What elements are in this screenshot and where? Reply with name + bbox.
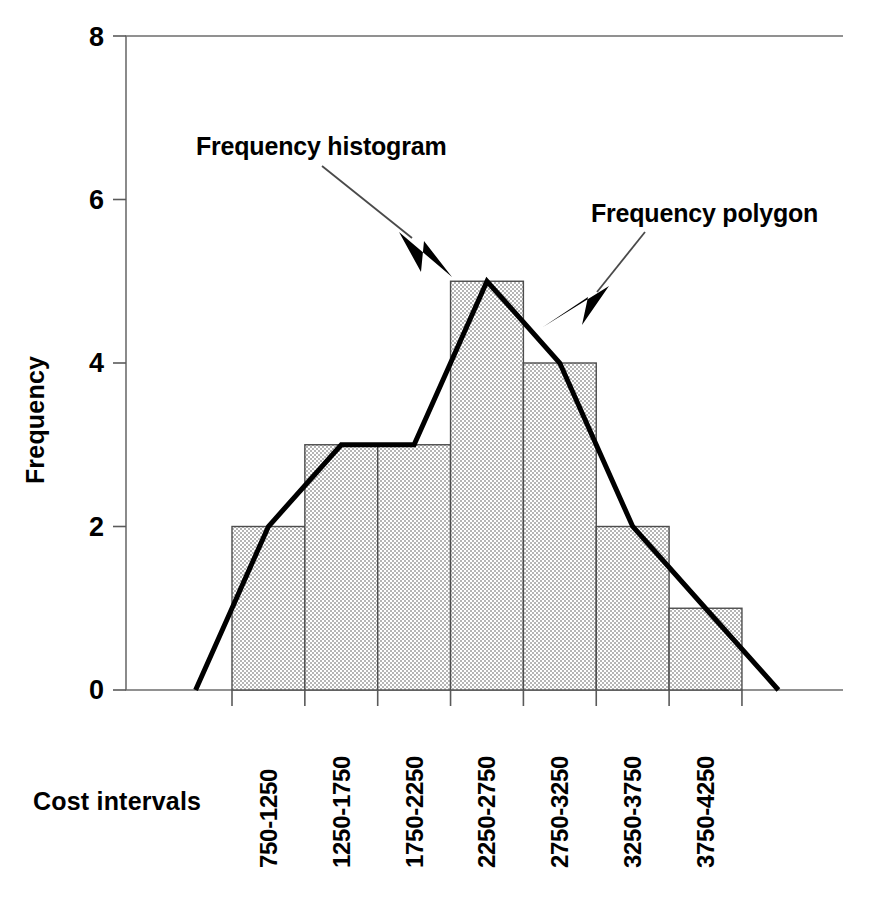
x-label-1750-2250: 1750-2250 (401, 756, 428, 868)
x-label-2750-3250: 2750-3250 (546, 756, 573, 868)
y-axis-title: Frequency (21, 356, 49, 484)
histogram-annotation-label: Frequency histogram (196, 132, 446, 160)
frequency-histogram-figure: 0 2 4 6 8 Frequency (0, 0, 872, 901)
bar-3750-4250 (669, 608, 742, 690)
y-tick-label-4: 4 (89, 348, 104, 378)
x-label-750-1250: 750-1250 (255, 769, 282, 868)
bar-1750-2250 (378, 445, 451, 690)
x-label-3250-3750: 3250-3750 (619, 756, 646, 868)
polygon-annotation-label: Frequency polygon (591, 199, 818, 227)
y-tick-label-8: 8 (89, 22, 104, 52)
bar-750-1250 (232, 527, 305, 691)
y-tick-label-6: 6 (89, 185, 104, 215)
bar-3250-3750 (596, 527, 669, 691)
bar-1250-1750 (305, 445, 378, 690)
x-axis-title: Cost intervals (33, 787, 201, 815)
x-label-2250-2750: 2250-2750 (473, 756, 500, 868)
x-label-1250-1750: 1250-1750 (328, 756, 355, 868)
bar-2750-3250 (523, 363, 596, 690)
y-tick-label-0: 0 (89, 675, 104, 705)
chart-canvas: 0 2 4 6 8 Frequency (0, 0, 872, 901)
y-tick-label-2: 2 (89, 512, 104, 542)
x-label-3750-4250: 3750-4250 (692, 756, 719, 868)
